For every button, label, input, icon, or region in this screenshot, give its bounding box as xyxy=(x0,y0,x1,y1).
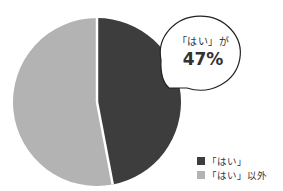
legend-swatch-yes xyxy=(197,157,205,165)
legend-label-yes: 「はい」 xyxy=(207,154,247,168)
legend-item-other: 「はい」以外 xyxy=(197,168,267,182)
callout-value: 47% xyxy=(163,49,243,69)
legend-swatch-other xyxy=(197,171,205,179)
callout-text: 「はい」が 47% xyxy=(163,33,243,69)
legend-item-yes: 「はい」 xyxy=(197,154,267,168)
callout-line1: 「はい」が xyxy=(163,33,243,48)
legend: 「はい」 「はい」以外 xyxy=(197,154,267,182)
legend-label-other: 「はい」以外 xyxy=(207,168,267,182)
